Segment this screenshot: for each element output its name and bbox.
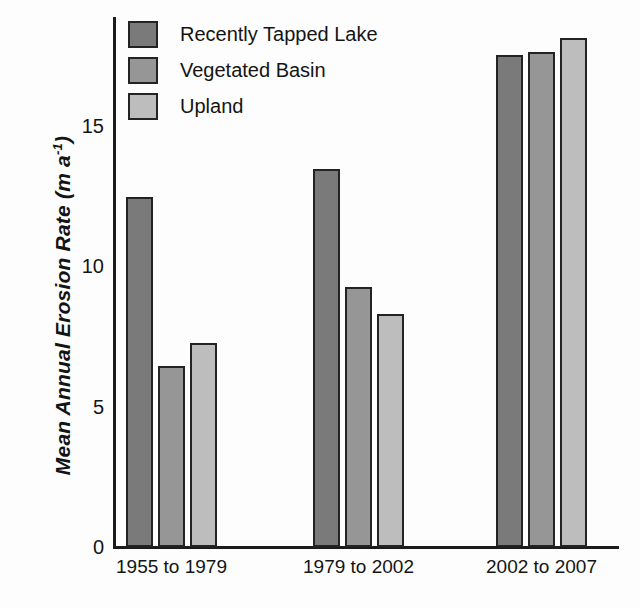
y-axis-title-superscript: -1 xyxy=(50,143,65,155)
legend-label: Vegetated Basin xyxy=(180,59,326,82)
y-tick-label: 5 xyxy=(58,396,104,419)
y-tick-label: 10 xyxy=(58,255,104,278)
legend-swatch-icon xyxy=(128,57,158,84)
bar xyxy=(345,287,372,547)
y-axis-title: Mean Annual Erosion Rate (m a-1) xyxy=(50,76,75,536)
bar xyxy=(377,314,404,547)
bar xyxy=(313,169,340,547)
y-tick-5: 5 xyxy=(58,396,104,418)
bar xyxy=(528,52,555,547)
legend-item[interactable]: Vegetated Basin xyxy=(128,52,378,88)
legend-item[interactable]: Recently Tapped Lake xyxy=(128,16,378,52)
x-tick-label: 2002 to 2007 xyxy=(452,556,632,578)
bar xyxy=(496,55,523,547)
y-tick-15: 15 xyxy=(58,115,104,137)
bar xyxy=(158,366,185,547)
bar xyxy=(560,38,587,547)
x-tick-label: 1979 to 2002 xyxy=(269,556,449,578)
y-axis-title-main: Mean Annual Erosion Rate (m a xyxy=(51,155,74,475)
y-tick-label: 15 xyxy=(58,115,104,138)
legend-item[interactable]: Upland xyxy=(128,88,378,124)
legend-swatch-icon xyxy=(128,21,158,48)
y-tick-0: 0 xyxy=(58,536,104,558)
legend-label: Upland xyxy=(180,95,243,118)
bar xyxy=(126,197,153,547)
bar-chart: Mean Annual Erosion Rate (m a-1) 051015 … xyxy=(0,0,640,608)
bar xyxy=(190,343,217,547)
legend: Recently Tapped LakeVegetated BasinUplan… xyxy=(128,16,378,124)
y-tick-10: 10 xyxy=(58,255,104,277)
legend-label: Recently Tapped Lake xyxy=(180,23,378,46)
x-tick-label: 1955 to 1979 xyxy=(82,556,262,578)
legend-swatch-icon xyxy=(128,93,158,120)
